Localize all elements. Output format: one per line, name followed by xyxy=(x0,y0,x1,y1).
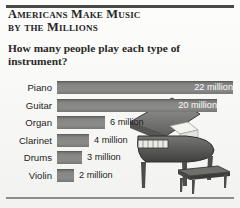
title-line-1: Americans Make Music xyxy=(8,7,141,21)
category-label-guitar: Guitar xyxy=(0,98,52,113)
bar-drums xyxy=(57,151,82,164)
bar-violin xyxy=(57,169,74,182)
page-title: Americans Make Music by the Millions xyxy=(8,8,230,35)
bar-track-violin: 2 million xyxy=(57,169,240,182)
table-row: Violin 2 million xyxy=(0,168,240,183)
bar-chart: Piano 22 million Guitar 20 million Organ… xyxy=(0,80,240,192)
bar-track-clarinet: 4 million xyxy=(57,134,240,147)
value-label-clarinet: 4 million xyxy=(89,134,128,147)
table-row: Organ 6 million xyxy=(0,115,240,130)
table-row: Guitar 20 million xyxy=(0,98,240,113)
category-label-drums: Drums xyxy=(0,150,52,165)
table-row: Clarinet 4 million xyxy=(0,133,240,148)
table-row: Piano 22 million xyxy=(0,80,240,95)
title-line-2: by the Millions xyxy=(8,20,98,34)
value-label-organ: 6 million xyxy=(105,116,144,129)
bar-track-drums: 3 million xyxy=(57,151,240,164)
value-label-violin: 2 million xyxy=(74,169,113,182)
value-label-piano: 22 million xyxy=(57,81,237,94)
bottom-divider xyxy=(6,197,234,199)
category-label-organ: Organ xyxy=(0,115,52,130)
table-row: Drums 3 million xyxy=(0,150,240,165)
bar-clarinet xyxy=(57,134,89,147)
bar-track-organ: 6 million xyxy=(57,116,240,129)
chart-subtitle: How many people play each type of instru… xyxy=(8,42,208,67)
bar-track-guitar: 20 million xyxy=(57,99,240,112)
bar-organ xyxy=(57,116,105,129)
value-label-drums: 3 million xyxy=(82,151,121,164)
category-label-piano: Piano xyxy=(0,80,52,95)
bar-track-piano: 22 million xyxy=(57,81,240,94)
category-label-clarinet: Clarinet xyxy=(0,133,52,148)
value-label-guitar: 20 million xyxy=(57,99,221,112)
infographic-card: Americans Make Music by the Millions How… xyxy=(0,0,240,208)
category-label-violin: Violin xyxy=(0,168,52,183)
